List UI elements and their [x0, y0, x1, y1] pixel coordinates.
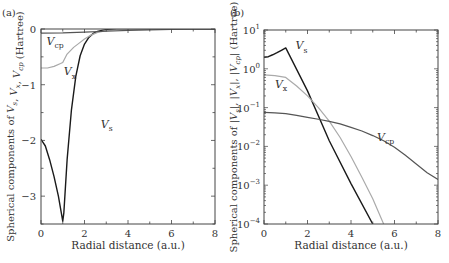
y-axis-label: Spherical components of Vs, Vx, Vcp (Har… — [5, 11, 25, 242]
y-tick-label: −2 — [21, 135, 36, 146]
plot-frame — [41, 29, 215, 224]
panel-b-log-chart: 0246810110010−110−210−310−4Radial distan… — [228, 2, 441, 253]
y-tick-label: 101 — [243, 23, 260, 36]
y-tick-label: 100 — [243, 62, 260, 75]
curve-label-cp: Vcp — [46, 35, 63, 50]
series-line-x — [41, 29, 215, 68]
series-line-cp — [264, 112, 438, 179]
y-tick-label: 10−2 — [237, 139, 260, 152]
x-axis-label: Radial distance (a.u.) — [71, 239, 184, 251]
x-tick-label: 4 — [348, 228, 354, 239]
y-tick-label: 10−4 — [237, 217, 261, 230]
panel-tag: (a) — [2, 7, 16, 18]
y-tick-label: −1 — [21, 80, 36, 91]
y-axis-label: Spherical components of |Vs|, |Vx|, |Vcp… — [228, 2, 242, 253]
panel-tag: (b) — [230, 7, 244, 18]
figure: 024680−1−2−3Radial distance (a.u.)Spheri… — [0, 0, 449, 263]
x-tick-label: 0 — [261, 228, 267, 239]
x-tick-label: 6 — [168, 228, 174, 239]
curve-label-cp: Vcp — [377, 131, 394, 146]
x-tick-label: 6 — [391, 228, 397, 239]
x-tick-label: 0 — [38, 228, 44, 239]
panel-a-linear-chart: 024680−1−2−3Radial distance (a.u.)Spheri… — [2, 7, 218, 251]
y-tick-label: 0 — [30, 24, 36, 35]
curve-label-x: Vx — [64, 65, 77, 80]
x-tick-label: 2 — [304, 228, 310, 239]
y-tick-label: 10−3 — [237, 178, 260, 191]
series-line-s — [41, 29, 215, 221]
curve-label-x: Vx — [275, 78, 288, 93]
series-line-x — [264, 75, 384, 224]
x-tick-label: 8 — [212, 228, 218, 239]
series-line-s — [264, 48, 373, 224]
curve-label-s: Vs — [296, 39, 308, 54]
y-tick-label: −3 — [21, 191, 36, 202]
x-tick-label: 4 — [125, 228, 131, 239]
curve-label-s: Vs — [101, 118, 113, 133]
x-tick-label: 2 — [81, 228, 87, 239]
x-tick-label: 8 — [435, 228, 441, 239]
x-axis-label: Radial distance (a.u.) — [294, 239, 407, 251]
